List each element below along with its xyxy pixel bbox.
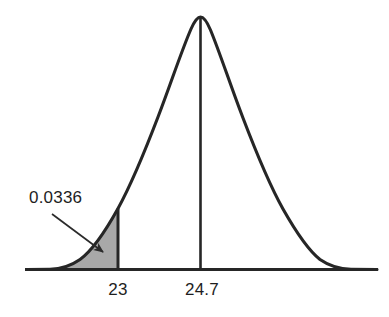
shaded-tail-region bbox=[25, 209, 118, 269]
normal-distribution-figure bbox=[0, 0, 389, 317]
annotation-arrow bbox=[52, 214, 103, 252]
x-axis-tick-label-mean: 24.7 bbox=[185, 280, 219, 300]
shaded-area-probability-label: 0.0336 bbox=[29, 188, 82, 208]
x-axis-tick-label-23: 23 bbox=[108, 280, 127, 300]
bell-curve-path bbox=[27, 17, 377, 270]
